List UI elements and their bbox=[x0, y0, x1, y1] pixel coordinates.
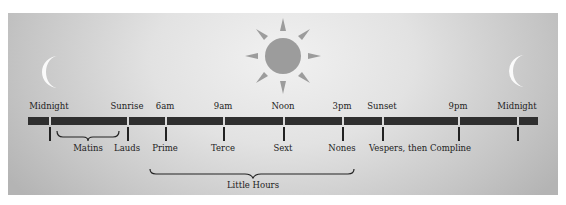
bar-notch bbox=[127, 117, 129, 125]
time-marker-label: Midnight bbox=[497, 101, 536, 111]
hour-tick bbox=[49, 127, 51, 141]
little-hours-label: Little Hours bbox=[227, 180, 279, 190]
time-marker-label: 3pm bbox=[333, 101, 352, 111]
bar-notch bbox=[49, 117, 51, 125]
hour-tick bbox=[223, 127, 225, 141]
canonical-hour-label: Prime bbox=[152, 143, 178, 153]
time-marker-label: Midnight bbox=[29, 101, 68, 111]
canonical-hour-label: Vespers, then Compline bbox=[369, 143, 471, 153]
canonical-hour-label: Sext bbox=[273, 143, 292, 153]
moon-icon bbox=[42, 56, 58, 88]
moon-icon bbox=[509, 55, 525, 87]
hour-tick bbox=[127, 127, 129, 141]
sun-icon bbox=[245, 18, 321, 94]
time-marker-label: Sunset bbox=[367, 101, 397, 111]
time-marker-label: Sunrise bbox=[111, 101, 144, 111]
bar-notch bbox=[458, 117, 460, 125]
canonical-hour-label: Lauds bbox=[114, 143, 140, 153]
time-marker-label: Noon bbox=[271, 101, 294, 111]
bar-notch bbox=[517, 117, 519, 125]
time-marker-label: 9pm bbox=[449, 101, 468, 111]
hour-tick bbox=[517, 127, 519, 141]
canonical-hour-label: Nones bbox=[328, 143, 355, 153]
hour-tick bbox=[382, 127, 384, 141]
bar-notch bbox=[382, 117, 384, 125]
hour-tick bbox=[283, 127, 285, 141]
matins-brace bbox=[57, 131, 119, 141]
little-hours-brace bbox=[150, 169, 354, 178]
bar-notch bbox=[223, 117, 225, 125]
time-marker-label: 9am bbox=[214, 101, 233, 111]
canonical-hour-label: Matins bbox=[73, 143, 103, 153]
bar-notch bbox=[342, 117, 344, 125]
canonical-hour-label: Terce bbox=[211, 143, 235, 153]
hour-tick bbox=[458, 127, 460, 141]
hour-tick bbox=[165, 127, 167, 141]
hour-tick bbox=[342, 127, 344, 141]
bar-notch bbox=[165, 117, 167, 125]
time-marker-label: 6am bbox=[156, 101, 175, 111]
bar-notch bbox=[283, 117, 285, 125]
